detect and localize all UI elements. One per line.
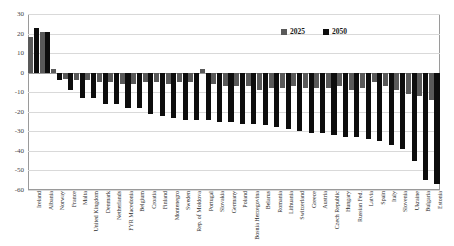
bar-group bbox=[165, 14, 176, 190]
x-tick-label: France bbox=[71, 191, 77, 207]
bar-2025 bbox=[63, 73, 68, 79]
bar-group bbox=[429, 14, 440, 190]
legend-item-2025: 2025 bbox=[281, 27, 305, 36]
bar-2050 bbox=[217, 73, 222, 122]
x-tick-label: Sweden bbox=[185, 191, 191, 210]
bar-group bbox=[383, 14, 394, 190]
bar-2025 bbox=[154, 73, 159, 83]
bar-2025 bbox=[166, 73, 171, 85]
y-tick-label: -30 bbox=[15, 128, 24, 135]
x-tick-label: Ireland bbox=[36, 191, 42, 208]
x-tick-label: Poland bbox=[242, 191, 248, 208]
bar-2025 bbox=[40, 32, 45, 73]
x-tick-label: Latvia bbox=[368, 191, 374, 206]
legend-swatch-2025-icon bbox=[281, 29, 287, 35]
x-tick-label: Albania bbox=[48, 191, 54, 210]
bar-group bbox=[223, 14, 234, 190]
bar-2050 bbox=[286, 73, 291, 130]
bar-2050 bbox=[68, 73, 73, 91]
bar-2025 bbox=[188, 73, 193, 83]
bar-2025 bbox=[383, 73, 388, 87]
bar-group bbox=[245, 14, 256, 190]
bar-2025 bbox=[223, 73, 228, 87]
y-tick-label: -40 bbox=[15, 147, 24, 154]
bar-2050 bbox=[251, 73, 256, 124]
bar-2050 bbox=[412, 73, 417, 161]
bar-group bbox=[234, 14, 245, 190]
bar-2050 bbox=[377, 73, 382, 141]
bar-2025 bbox=[108, 73, 113, 83]
x-tick-label: Hungary bbox=[345, 191, 351, 212]
bar-2050 bbox=[343, 73, 348, 138]
bar-2025 bbox=[360, 73, 365, 89]
legend-label-2050: 2050 bbox=[332, 27, 347, 36]
x-tick-label: Austria bbox=[322, 191, 328, 209]
bar-group bbox=[211, 14, 222, 190]
x-tick-label: Bosnia Herzegovina bbox=[254, 191, 260, 240]
bar-2025 bbox=[246, 73, 251, 87]
bar-2025 bbox=[120, 73, 125, 85]
x-tick-label: Spain bbox=[380, 191, 386, 205]
bar-group bbox=[257, 14, 268, 190]
bar-group bbox=[268, 14, 279, 190]
y-tick-label: -50 bbox=[15, 167, 24, 174]
bar-2050 bbox=[137, 73, 142, 108]
x-tick-label: Italy bbox=[391, 191, 397, 202]
bar-2050 bbox=[148, 73, 153, 114]
bar-2025 bbox=[211, 73, 216, 85]
bar-series-container bbox=[28, 14, 440, 190]
x-tick-label: Croatia bbox=[151, 191, 157, 209]
bar-2025 bbox=[97, 73, 102, 83]
x-tick-label: Estonia bbox=[437, 191, 443, 209]
bar-group bbox=[97, 14, 108, 190]
bar-2025 bbox=[417, 73, 422, 96]
bar-2050 bbox=[183, 73, 188, 120]
bar-2025 bbox=[326, 73, 331, 89]
x-tick-label: Norway bbox=[59, 191, 65, 210]
bar-group bbox=[371, 14, 382, 190]
bar-group bbox=[360, 14, 371, 190]
bar-2025 bbox=[269, 73, 274, 89]
x-tick-label: Switzerland bbox=[299, 191, 305, 220]
y-tick-label: 30 bbox=[17, 11, 24, 18]
bar-group bbox=[314, 14, 325, 190]
x-tick-label: Bulgaria bbox=[425, 191, 431, 212]
bar-2025 bbox=[131, 73, 136, 85]
bar-2025 bbox=[28, 37, 33, 72]
bar-2050 bbox=[297, 73, 302, 132]
x-tick-label: Netherlands bbox=[116, 191, 122, 220]
chart-legend: 2025 2050 bbox=[281, 27, 347, 36]
bar-group bbox=[394, 14, 405, 190]
bar-group bbox=[337, 14, 348, 190]
bar-2050 bbox=[171, 73, 176, 118]
bar-2050 bbox=[263, 73, 268, 126]
bar-2050 bbox=[320, 73, 325, 134]
x-tick-label: Lithuania bbox=[288, 191, 294, 214]
bar-2050 bbox=[274, 73, 279, 128]
bar-2050 bbox=[160, 73, 165, 116]
bar-group bbox=[51, 14, 62, 190]
bar-2025 bbox=[143, 73, 148, 83]
x-tick-label: Ukraine bbox=[414, 191, 420, 210]
bar-group bbox=[280, 14, 291, 190]
x-tick-label: Montenegro bbox=[174, 191, 180, 220]
bar-2050 bbox=[366, 73, 371, 139]
x-tick-label: Greece bbox=[311, 191, 317, 208]
bar-2025 bbox=[291, 73, 296, 87]
bar-2050 bbox=[125, 73, 130, 108]
x-tick-label: Slovenia bbox=[402, 191, 408, 212]
legend-item-2050: 2050 bbox=[323, 27, 347, 36]
bar-group bbox=[28, 14, 39, 190]
y-tick-label: -60 bbox=[15, 187, 24, 194]
bar-2050 bbox=[80, 73, 85, 98]
bar-group bbox=[120, 14, 131, 190]
bar-2050 bbox=[34, 28, 39, 73]
x-tick-label: Denmark bbox=[105, 191, 111, 213]
y-axis-labels: 3020100-10-20-30-40-50-60 bbox=[0, 14, 26, 190]
bar-2050 bbox=[240, 73, 245, 124]
x-tick-label: Belgium bbox=[139, 191, 145, 212]
bar-2025 bbox=[314, 73, 319, 89]
bar-group bbox=[154, 14, 165, 190]
bar-2025 bbox=[234, 73, 239, 87]
x-tick-label: Belarus bbox=[265, 191, 271, 209]
